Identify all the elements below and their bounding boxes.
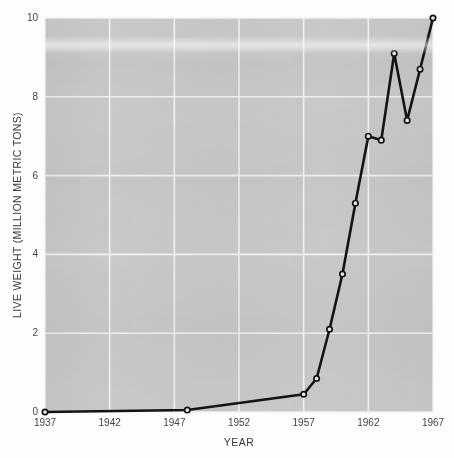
y-tick-label: 0 (0, 406, 38, 417)
data-point-marker (392, 51, 397, 56)
gridlines (45, 18, 433, 412)
y-tick-label: 4 (0, 248, 38, 259)
x-tick-label: 1947 (154, 417, 194, 428)
x-tick-label: 1967 (413, 417, 453, 428)
y-axis-label-container: LIVE WEIGHT (MILLION METRIC TONS) (6, 0, 28, 430)
x-tick-label: 1957 (284, 417, 324, 428)
data-point-marker (353, 200, 358, 205)
chart-figure: LIVE WEIGHT (MILLION METRIC TONS) 024681… (0, 0, 454, 458)
x-axis-label: YEAR (45, 436, 433, 448)
data-point-marker (417, 67, 422, 72)
data-point-marker (327, 327, 332, 332)
data-point-marker (301, 392, 306, 397)
x-tick-label: 1937 (25, 417, 65, 428)
data-point-marker (314, 376, 319, 381)
data-point-marker (340, 271, 345, 276)
x-tick-label: 1952 (219, 417, 259, 428)
data-point-marker (185, 407, 190, 412)
data-point-marker (379, 137, 384, 142)
x-tick-label: 1962 (348, 417, 388, 428)
y-tick-label: 2 (0, 327, 38, 338)
y-tick-label: 6 (0, 170, 38, 181)
data-point-marker (42, 409, 47, 414)
y-tick-label: 8 (0, 91, 38, 102)
y-tick-label: 10 (0, 12, 38, 23)
x-tick-label: 1942 (90, 417, 130, 428)
plot-area (45, 18, 433, 412)
plot-svg (45, 18, 433, 412)
data-point-marker (404, 118, 409, 123)
y-axis-label: LIVE WEIGHT (MILLION METRIC TONS) (11, 112, 23, 318)
data-point-marker (366, 134, 371, 139)
data-point-marker (430, 15, 435, 20)
